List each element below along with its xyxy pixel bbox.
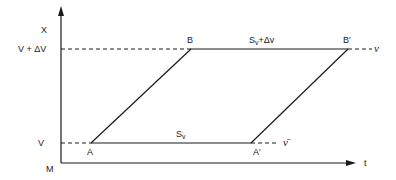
bottom-segment-label: Sv (176, 129, 186, 140)
y-axis-label: X (41, 25, 47, 35)
point-B-prime-label: B′ (343, 35, 351, 45)
top-segment-label: Sv+Δv (249, 35, 275, 46)
diagram-canvas: X t M V + ΔV V A B B′ A′ Sv+Δv Sv ν ν̄ (0, 0, 396, 180)
x-axis-arrow-icon (346, 160, 356, 166)
x-axis-label: t (364, 158, 367, 168)
lower-line-nu-bar-label: ν̄ (283, 136, 291, 148)
y-axis-arrow-icon (58, 6, 64, 16)
edge-B-prime-A-prime (251, 49, 348, 143)
point-B-label: B (187, 35, 193, 45)
point-A-label: A (87, 147, 93, 157)
upper-level-label: V + ΔV (18, 44, 46, 54)
lower-level-label: V (38, 138, 44, 148)
origin-label: M (46, 164, 54, 174)
point-A-prime-label: A′ (253, 147, 261, 157)
upper-line-nu-label: ν (374, 42, 379, 54)
